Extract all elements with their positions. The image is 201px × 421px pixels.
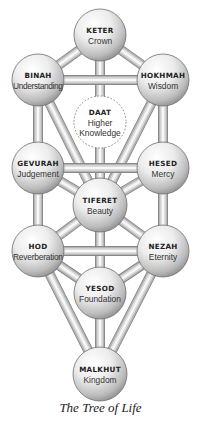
sephira-binah: BINAHUnderstanding bbox=[12, 54, 64, 106]
sephira-title: NEZAH bbox=[148, 242, 177, 251]
sephira-subtitle: Understanding bbox=[13, 81, 63, 91]
sephira-tiferet: TIFERETBeauty bbox=[73, 178, 127, 232]
sephira-title: MALKHUT bbox=[79, 365, 121, 374]
sephira-title: DAAT bbox=[89, 108, 112, 117]
sephira-subtitle: Mercy bbox=[152, 169, 176, 179]
sephira-daat: DAATHigherKnowledge bbox=[74, 96, 126, 148]
sephira-subtitle: Reverberation bbox=[13, 252, 63, 262]
sephira-subtitle-2: Knowledge bbox=[79, 128, 121, 138]
sephira-hod: HODReverberation bbox=[12, 225, 64, 277]
tree-of-life-diagram: KETERCrownBINAHUnderstandingHOKHMAHWisdo… bbox=[0, 0, 201, 421]
sephira-subtitle: Crown bbox=[88, 36, 113, 46]
sephira-title: HOD bbox=[29, 242, 48, 251]
sephira-hesed: HESEDMercy bbox=[137, 142, 189, 194]
sephira-subtitle: Eternity bbox=[149, 252, 178, 262]
sephira-keter: KETERCrown bbox=[74, 9, 126, 61]
sephira-subtitle: Foundation bbox=[79, 294, 121, 304]
sephira-title: BINAH bbox=[24, 71, 51, 80]
sephira-subtitle: Judgement bbox=[17, 169, 59, 179]
sephira-hokhmah: HOKHMAHWisdom bbox=[137, 54, 189, 106]
sephira-title: HESED bbox=[149, 159, 177, 168]
diagram-caption: The Tree of Life bbox=[0, 400, 201, 416]
sephira-title: GEVURAH bbox=[17, 159, 58, 168]
sephira-yesod: YESODFoundation bbox=[74, 267, 126, 319]
sephira-title: YESOD bbox=[85, 284, 115, 293]
sephira-gevurah: GEVURAHJudgement bbox=[12, 142, 64, 194]
sephira-title: HOKHMAH bbox=[141, 71, 186, 80]
sephira-subtitle: Kingdom bbox=[83, 375, 116, 385]
sephira-title: TIFERET bbox=[83, 196, 118, 205]
sephira-malkhut: MALKHUTKingdom bbox=[73, 347, 127, 401]
sephira-subtitle: Beauty bbox=[87, 206, 114, 216]
sephira-nezah: NEZAHEternity bbox=[137, 225, 189, 277]
sephira-subtitle: Wisdom bbox=[148, 81, 178, 91]
sephira-title: KETER bbox=[86, 26, 113, 35]
sephira-subtitle: Higher bbox=[88, 118, 113, 128]
